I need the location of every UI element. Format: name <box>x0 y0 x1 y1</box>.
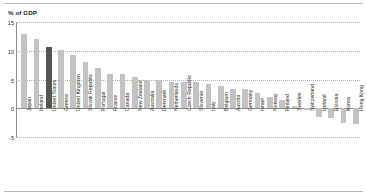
x-axis-label: Iceland <box>321 95 327 112</box>
y-tick-label: 10 <box>8 49 14 55</box>
x-axis-label: Denmark <box>161 90 167 111</box>
top-rule <box>4 3 363 4</box>
y-tick-label: 15 <box>8 20 14 26</box>
x-axis-label: Slovenia <box>198 91 204 111</box>
x-axis-label: Italy <box>210 102 216 112</box>
x-axis-label: Portugal <box>100 92 106 111</box>
x-axis-label: Hong Kong <box>358 85 364 111</box>
bottom-rule <box>4 191 363 192</box>
y-tick-label: 5 <box>11 78 14 84</box>
chart-figure: % of GDP 151050-5 JapanIrelandUnited Sta… <box>0 0 367 194</box>
x-axis-label: Ireland <box>38 95 44 111</box>
y-tick-label: 0 <box>11 106 14 112</box>
x-axis-label: Germany <box>247 90 253 111</box>
x-axis-label: Korea <box>345 97 351 111</box>
x-axis-label: Japan <box>26 97 32 111</box>
x-axis-label: Estonia <box>333 94 339 111</box>
x-axis-label: Austria <box>235 95 241 111</box>
x-axis-label: Sweden <box>296 93 302 112</box>
y-axis-title: % of GDP <box>8 9 37 16</box>
x-axis-label: Australia <box>149 91 155 111</box>
gridline--5: -5 <box>16 137 360 138</box>
x-axis-label: New Zealand <box>137 81 143 112</box>
x-axis-label: France <box>112 95 118 111</box>
x-axis-labels: JapanIrelandUnited StatesGreeceUnited Ki… <box>16 22 360 137</box>
x-axis-label: United Kingdom <box>75 74 81 111</box>
y-tick-label: -5 <box>9 135 14 141</box>
x-axis-label: Norway <box>272 94 278 112</box>
x-axis-label: United States <box>51 80 57 111</box>
x-axis-label: Belgium <box>223 93 229 112</box>
x-axis-label: Canada <box>124 93 130 111</box>
x-axis-label: Slovak Republic <box>87 74 93 111</box>
x-axis-label: Czech Republic <box>186 75 192 111</box>
x-axis-label: Greece <box>63 94 69 111</box>
x-axis-label: Israel <box>259 99 265 112</box>
x-axis-label: Finland <box>284 94 290 111</box>
x-axis-label: Switzerland <box>309 84 315 111</box>
x-axis-label: Netherlands <box>173 83 179 111</box>
